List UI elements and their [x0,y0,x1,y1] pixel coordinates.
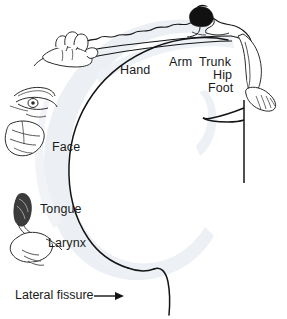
eye-corner-lines [10,106,28,111]
label-foot: Foot [208,82,233,95]
label-trunk: Trunk [199,56,231,69]
hair-shape [189,7,213,27]
diagram-canvas [0,0,287,319]
label-hip: Hip [213,69,232,82]
homunculus-eye-group [10,87,57,117]
body-top-contour [72,15,252,50]
arrow-head [115,292,124,300]
lateral-fissure-arrow-group [94,292,124,300]
larynx-outline [10,232,52,262]
cortex-shading-right-lobe [196,90,217,156]
thumb [86,48,98,59]
finger-crease-a [62,50,63,61]
eyebrow-inner [18,91,53,97]
homunculus-leg-group [238,34,276,111]
label-face: Face [52,141,80,154]
homunculus-tongue-group [14,193,37,236]
label-tongue: Tongue [40,203,82,216]
finger-crease-b [72,49,73,60]
label-hand: Hand [120,64,150,77]
pupil [31,101,35,105]
motor-homunculus-figure: Hand Arm Trunk Hip Foot Face Tongue Lary… [0,0,287,319]
tongue-body [14,193,31,226]
label-arm: Arm [169,56,192,69]
label-larynx: Larynx [48,237,86,250]
homunculus-hand-group [34,32,98,67]
label-lateral-fissure: Lateral fissure [15,289,94,302]
hand-wrist [34,58,44,66]
